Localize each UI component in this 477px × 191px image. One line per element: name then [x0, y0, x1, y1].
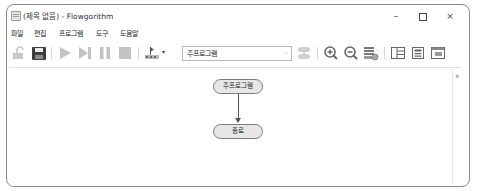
app-icon: [11, 11, 21, 21]
speed-icon: [144, 45, 160, 61]
layout-icon: [363, 45, 379, 61]
save-button[interactable]: [31, 45, 47, 61]
app-window: (제목 없음) - Flowgorithm – × 파일 편집 프로그램 도구 …: [6, 4, 470, 187]
close-button[interactable]: ×: [439, 9, 461, 23]
chevron-down-icon: ⌵: [283, 48, 288, 56]
function-select[interactable]: 주프로그램 ⌵: [182, 46, 292, 61]
pause-button[interactable]: [97, 45, 113, 61]
variable-watch-button[interactable]: [390, 45, 406, 61]
open-icon: [11, 45, 27, 61]
stop-icon: [117, 45, 133, 61]
step-button[interactable]: [77, 45, 93, 61]
run-button[interactable]: [57, 45, 73, 61]
zoom-out-icon: [343, 45, 359, 61]
run-icon: [57, 45, 73, 61]
open-button[interactable]: [11, 45, 27, 61]
console-button[interactable]: [410, 45, 426, 61]
toolbar: ▾ 주프로그램 ⌵: [7, 41, 469, 65]
flowchart-canvas[interactable]: ▲ 주프로그램 종료: [9, 67, 461, 186]
menu-tools[interactable]: 도구: [96, 28, 108, 38]
title-bar: (제목 없음) - Flowgorithm – ×: [7, 5, 469, 27]
layout-button[interactable]: [363, 45, 379, 61]
toolbar-separator: [384, 47, 385, 59]
flowchart-node-main[interactable]: 주프로그램: [213, 79, 263, 94]
function-manager-button[interactable]: [296, 45, 312, 61]
save-icon: [31, 45, 47, 61]
scroll-up-arrow[interactable]: ▲: [455, 72, 459, 78]
maximize-button[interactable]: [412, 9, 434, 23]
toolbar-separator: [51, 47, 52, 59]
window-title: (제목 없음) - Flowgorithm: [23, 10, 113, 21]
menu-edit[interactable]: 편집: [34, 28, 46, 38]
function-manager-icon: [296, 45, 312, 61]
toolbar-separator: [138, 47, 139, 59]
menu-bar: 파일 편집 프로그램 도구 도움말: [7, 27, 469, 41]
vertical-scrollbar[interactable]: [452, 69, 453, 184]
menu-file[interactable]: 파일: [11, 28, 23, 38]
zoom-in-icon: [323, 45, 339, 61]
source-code-icon: [430, 45, 446, 61]
toolbar-separator: [317, 47, 318, 59]
flowchart-node-end[interactable]: 종료: [213, 124, 263, 139]
menu-help[interactable]: 도움말: [120, 28, 138, 38]
arrow-head-icon: [235, 118, 241, 123]
zoom-in-button[interactable]: [323, 45, 339, 61]
zoom-out-button[interactable]: [343, 45, 359, 61]
menu-program[interactable]: 프로그램: [59, 28, 83, 38]
maximize-icon: [419, 13, 427, 21]
source-code-button[interactable]: [430, 45, 446, 61]
variable-watch-icon: [390, 45, 406, 61]
console-icon: [410, 45, 426, 61]
speed-button[interactable]: [144, 45, 160, 61]
speed-dropdown-arrow[interactable]: ▾: [162, 48, 165, 55]
pause-icon: [97, 45, 113, 61]
step-icon: [77, 45, 93, 61]
flowchart-arrow[interactable]: [238, 94, 239, 119]
minimize-button[interactable]: –: [385, 9, 407, 23]
function-select-value: 주프로그램: [187, 48, 217, 58]
stop-button[interactable]: [117, 45, 133, 61]
